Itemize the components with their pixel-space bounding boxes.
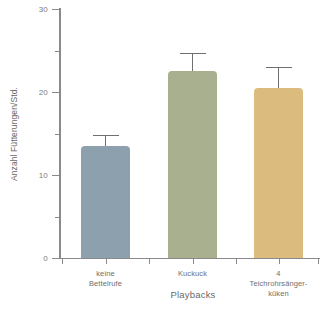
- y-tick-major: [52, 92, 60, 93]
- bar: [254, 88, 303, 258]
- error-bar-cap: [93, 135, 119, 136]
- y-tick-major: [52, 258, 60, 259]
- x-tick: [149, 258, 150, 264]
- y-tick-label: 30: [8, 5, 48, 14]
- error-bar-cap: [180, 53, 206, 54]
- y-tick-label: 10: [8, 171, 48, 180]
- y-tick-minor: [55, 217, 60, 218]
- bar: [81, 146, 130, 258]
- x-tick-label: 4 Teichrohrsänger- küken: [250, 269, 308, 299]
- x-tick: [318, 258, 319, 264]
- y-tick-major: [52, 9, 60, 10]
- x-tick: [62, 258, 63, 264]
- y-tick-minor: [55, 134, 60, 135]
- x-tick: [193, 258, 194, 264]
- x-tick: [106, 258, 107, 264]
- bar-chart: Anzahl Fütterungen/Std. 0102030 keine Be…: [0, 0, 328, 312]
- scan-artifact: [312, 0, 328, 34]
- bar: [168, 71, 217, 258]
- y-tick-minor: [55, 51, 60, 52]
- x-tick: [236, 258, 237, 264]
- error-bar-stem: [192, 53, 193, 71]
- y-axis-title: Anzahl Fütterungen/Std.: [9, 87, 19, 181]
- y-tick-label: 20: [8, 88, 48, 97]
- x-tick: [279, 258, 280, 264]
- y-tick-label: 0: [8, 254, 48, 263]
- x-tick-label: Kuckuck: [178, 269, 207, 279]
- error-bar-cap: [266, 67, 292, 68]
- x-tick-label: keine Bettelrufe: [89, 269, 122, 289]
- x-axis-title: Playbacks: [170, 289, 215, 300]
- error-bar-stem: [278, 67, 279, 88]
- y-tick-major: [52, 175, 60, 176]
- error-bar-stem: [105, 135, 106, 146]
